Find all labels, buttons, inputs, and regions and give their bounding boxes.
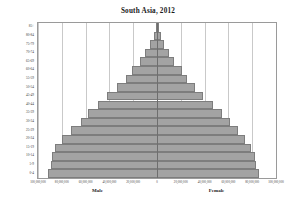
bar-female xyxy=(157,144,251,153)
bar-female xyxy=(157,49,169,58)
y-tick-label: 75-79 xyxy=(26,43,34,46)
bar-female xyxy=(157,109,222,118)
y-tick-label: 40-44 xyxy=(26,103,34,106)
bar-female xyxy=(157,126,238,135)
plot-area xyxy=(37,22,277,179)
bar-female xyxy=(157,92,203,101)
axis-caption-female: Female xyxy=(209,188,225,193)
bar-female xyxy=(157,161,256,170)
bar-male xyxy=(55,144,157,153)
bar-female xyxy=(157,57,174,66)
x-axis: 100,000,00080,000,00060,000,00040,000,00… xyxy=(37,181,277,189)
y-tick-label: 60-64 xyxy=(26,68,34,71)
x-tick-label: 20,000,000 xyxy=(126,181,140,184)
bar-male xyxy=(150,40,157,49)
y-tick-label: 50-54 xyxy=(26,86,34,89)
x-tick-label: 80,000,000 xyxy=(245,181,259,184)
y-tick-label: 65-69 xyxy=(26,60,34,63)
y-tick-label: 45-49 xyxy=(26,94,34,97)
x-tick-label: 60,000,000 xyxy=(221,181,235,184)
bar-female xyxy=(157,40,164,49)
population-pyramid-chart: South Asia, 2012 0-45-910-1415-1920-2425… xyxy=(0,0,296,208)
bar-male xyxy=(48,169,157,178)
bar-female xyxy=(157,118,230,127)
x-tick-label: 100,000,000 xyxy=(30,181,45,184)
axis-caption-male: Male xyxy=(92,188,103,193)
bar-female xyxy=(157,66,182,75)
y-tick-label: 35-39 xyxy=(26,111,34,114)
x-tick-label: 0 xyxy=(156,181,158,184)
y-tick-label: 0-4 xyxy=(29,172,34,175)
x-tick-label: 100,000,000 xyxy=(268,181,283,184)
y-tick-label: 85+ xyxy=(29,25,34,28)
bar-male xyxy=(117,83,157,92)
bar-male xyxy=(88,109,157,118)
x-tick-label: 80,000,000 xyxy=(55,181,69,184)
zero-axis-line xyxy=(157,23,158,178)
bar-male xyxy=(107,92,157,101)
y-tick-label: 25-29 xyxy=(26,129,34,132)
x-tick-label: 40,000,000 xyxy=(198,181,212,184)
y-tick-label: 5-9 xyxy=(29,163,34,166)
y-tick-label: 70-74 xyxy=(26,51,34,54)
bar-female xyxy=(157,169,259,178)
bar-female xyxy=(157,135,245,144)
bar-male xyxy=(71,126,157,135)
x-tick-label: 40,000,000 xyxy=(102,181,116,184)
bar-male xyxy=(81,118,157,127)
y-tick-label: 30-34 xyxy=(26,120,34,123)
bar-male xyxy=(126,75,157,84)
y-tick-label: 80-84 xyxy=(26,34,34,37)
y-tick-label: 55-59 xyxy=(26,77,34,80)
gridline xyxy=(276,23,277,178)
bar-male xyxy=(140,57,157,66)
y-tick-label: 15-19 xyxy=(26,146,34,149)
bar-male xyxy=(51,161,157,170)
bar-female xyxy=(157,75,187,84)
chart-title: South Asia, 2012 xyxy=(0,7,296,15)
y-axis: 0-45-910-1415-1920-2425-2930-3435-3940-4… xyxy=(8,22,35,179)
x-tick-label: 20,000,000 xyxy=(174,181,188,184)
y-tick-label: 20-24 xyxy=(26,137,34,140)
bar-female xyxy=(157,101,213,110)
bar-female xyxy=(157,152,255,161)
y-tick-label: 10-14 xyxy=(26,154,34,157)
bar-male xyxy=(98,101,158,110)
bar-male xyxy=(132,66,157,75)
bar-male xyxy=(52,152,157,161)
bar-male xyxy=(62,135,157,144)
bar-female xyxy=(157,83,195,92)
bar-male xyxy=(145,49,157,58)
x-tick-label: 60,000,000 xyxy=(79,181,93,184)
